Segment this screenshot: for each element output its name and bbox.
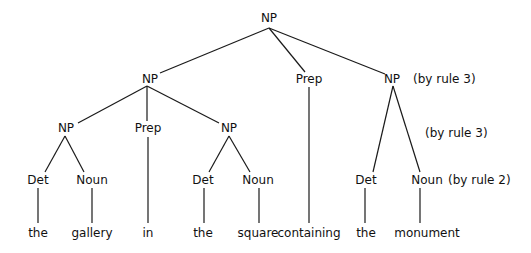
tree-edge-np_lr-noun2 [229,136,250,172]
tree-leaf-word: monument [394,226,460,240]
rule-annotation: (by rule 3) [413,72,476,86]
tree-node-det2: Det [192,173,213,187]
tree-leaf-word: containing [277,226,340,240]
tree-edge-np_right-noun3 [393,86,420,172]
tree-node-np_right: NP [384,72,400,86]
tree-node-det1: Det [27,173,48,187]
tree-node-np_lr: NP [221,121,237,135]
tree-node-det3: Det [355,173,376,187]
tree-leaf-word: the [356,226,376,240]
tree-node-np_left: NP [142,72,158,86]
tree-edge-np_left-np_lr [147,86,219,123]
tree-node-prep_top: Prep [296,72,323,86]
tree-edge-np_root-np_left [160,28,269,73]
tree-node-prep_in: Prep [135,121,162,135]
tree-edge-np_lr-det2 [209,136,229,172]
tree-leaf-word: the [28,226,48,240]
tree-leaf-word: gallery [71,226,112,240]
tree-edge-np_ll-noun1 [65,136,84,172]
tree-edge-np_ll-det1 [45,136,65,172]
tree-node-np_root: NP [261,11,277,25]
tree-node-noun1: Noun [76,173,108,187]
tree-edge-np_root-np_right [269,28,385,74]
tree-leaf-word: in [143,226,154,240]
tree-leaf-word: the [193,226,213,240]
tree-node-np_ll: NP [58,121,74,135]
tree-leaf-word: square [238,226,279,240]
tree-node-noun3: Noun [411,173,443,187]
tree-edge-np_left-np_ll [78,86,147,123]
tree-node-noun2: Noun [242,173,274,187]
tree-edge-np_right-det3 [373,86,393,172]
rule-annotation: (by rule 2) [448,173,511,187]
rule-annotation: (by rule 3) [425,126,488,140]
